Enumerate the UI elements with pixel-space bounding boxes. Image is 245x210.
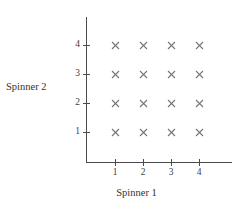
x-tick-label-3: 3	[164, 167, 178, 178]
y-axis-line	[86, 17, 87, 163]
data-point-marker	[111, 41, 120, 50]
data-point-marker	[111, 128, 120, 137]
x-axis-line	[86, 162, 232, 163]
data-point-marker	[195, 41, 204, 50]
x-tick-mark-3	[171, 159, 172, 166]
y-axis-title: Spinner 2	[6, 80, 78, 93]
plot-area: 1 2 3 4 4 3 2 1 Spinner 2 Spinner 1	[0, 0, 245, 210]
data-point-marker	[167, 70, 176, 79]
data-point-marker	[139, 99, 148, 108]
y-tick-label-1: 1	[66, 126, 80, 137]
x-tick-mark-2	[143, 159, 144, 166]
data-point-marker	[195, 99, 204, 108]
y-tick-mark-4	[83, 45, 90, 46]
y-tick-label-3: 3	[66, 68, 80, 79]
x-tick-mark-4	[199, 159, 200, 166]
data-point-marker	[111, 99, 120, 108]
x-tick-label-1: 1	[108, 167, 122, 178]
y-tick-mark-1	[83, 132, 90, 133]
data-point-marker	[195, 70, 204, 79]
data-point-marker	[139, 128, 148, 137]
x-tick-mark-1	[115, 159, 116, 166]
x-axis-title: Spinner 1	[0, 186, 245, 199]
y-tick-label-2: 2	[66, 97, 80, 108]
scatter-plot-figure: 1 2 3 4 4 3 2 1 Spinner 2 Spinner 1	[0, 0, 245, 210]
data-point-marker	[195, 128, 204, 137]
y-tick-label-4: 4	[66, 39, 80, 50]
data-point-marker	[111, 70, 120, 79]
data-point-marker	[167, 99, 176, 108]
data-point-marker	[167, 128, 176, 137]
data-point-marker	[139, 70, 148, 79]
x-tick-label-2: 2	[136, 167, 150, 178]
y-tick-mark-3	[83, 74, 90, 75]
data-point-marker	[139, 41, 148, 50]
data-point-marker	[167, 41, 176, 50]
y-tick-mark-2	[83, 103, 90, 104]
x-tick-label-4: 4	[192, 167, 206, 178]
